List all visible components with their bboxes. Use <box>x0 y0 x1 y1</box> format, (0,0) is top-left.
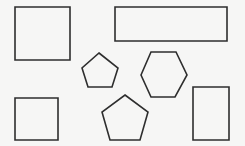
shapes-canvas <box>0 0 245 146</box>
background <box>0 0 245 146</box>
